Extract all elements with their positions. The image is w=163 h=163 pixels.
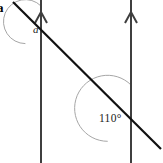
angle-110-arc bbox=[75, 75, 131, 141]
angle-110-label: 110° bbox=[99, 113, 122, 125]
angle-a-label: a bbox=[33, 24, 39, 35]
question-number-label: a bbox=[0, 1, 4, 14]
geometry-figure: a a 110° bbox=[0, 0, 163, 163]
diagram-canvas bbox=[0, 0, 163, 163]
